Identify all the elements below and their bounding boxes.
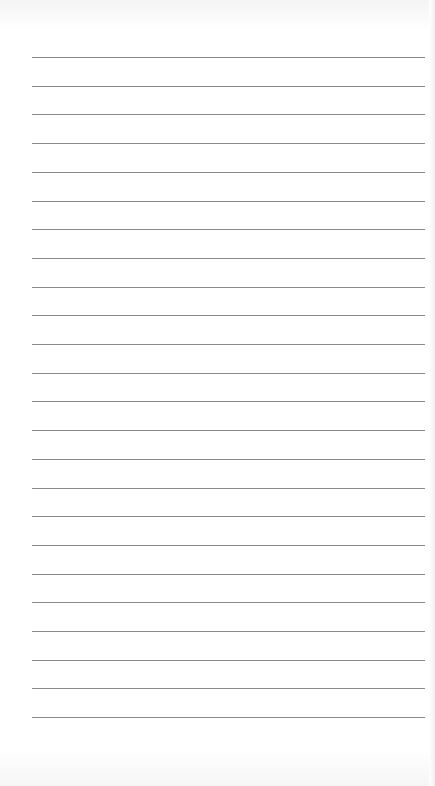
ruled-line [32,114,425,115]
ruled-line [32,401,425,402]
ruled-line [32,717,425,718]
ruled-line [32,430,425,431]
ruled-line [32,688,425,689]
page-edge-shadow [429,0,435,786]
ruled-line [32,315,425,316]
ruled-line [32,86,425,87]
ruled-line [32,631,425,632]
ruled-line [32,344,425,345]
ruled-line [32,287,425,288]
ruled-line [32,459,425,460]
ruled-line [32,602,425,603]
ruled-line [32,172,425,173]
ruled-line [32,258,425,259]
ruled-line [32,516,425,517]
ruled-line [32,201,425,202]
ruled-line [32,545,425,546]
ruled-line [32,229,425,230]
ruled-line [32,373,425,374]
ruled-line [32,57,425,58]
ruled-line [32,574,425,575]
lined-paper-page [0,0,435,786]
ruled-line [32,660,425,661]
ruled-line [32,488,425,489]
ruled-line [32,143,425,144]
